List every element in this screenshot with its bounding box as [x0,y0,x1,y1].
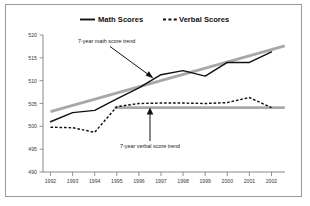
y-tick-label-490: 490 [28,169,37,175]
x-tick-label-1997: 1997 [155,178,167,184]
x-tick-label-2001: 2001 [244,178,256,184]
y-tick-label-510: 510 [28,78,37,84]
y-tick-label-505: 505 [28,101,37,107]
annotation-label-math-trend: 7-year math score trend [78,38,135,44]
trend-lines-group [51,46,285,112]
x-tick-label-1996: 1996 [133,178,145,184]
y-tick-label-520: 520 [28,32,37,38]
x-tick-label-1994: 1994 [89,178,101,184]
x-tick-label-1992: 1992 [45,178,57,184]
annotation-math-trend: 7-year math score trend [78,38,154,79]
annotation-verbal-trend: 7-year verbal score trend [120,108,180,150]
y-axis-ticks: 520 515 510 505 500 495 490 [28,32,43,175]
annotation-arrowhead-math-trend [146,71,154,78]
math-trend-line [51,46,285,112]
x-tick-label-1995: 1995 [111,178,123,184]
data-series-group [51,52,272,132]
series-line-math-scores [51,52,272,122]
annotation-label-verbal-trend: 7-year verbal score trend [120,143,180,149]
scores-line-chart: Math Scores Verbal Scores 520 515 510 50… [0,0,310,206]
y-tick-label-500: 500 [28,123,37,129]
x-axis-ticks: 1992 1993 1994 1995 1996 1997 1998 1999 … [45,172,278,184]
y-tick-label-515: 515 [28,55,37,61]
x-tick-label-2002: 2002 [266,178,278,184]
annotation-leader-math-trend [110,47,151,77]
x-tick-label-1998: 1998 [177,178,189,184]
x-tick-label-2000: 2000 [222,178,234,184]
legend-label-verbal-scores: Verbal Scores [179,15,229,24]
chart-legend: Math Scores Verbal Scores [80,15,229,24]
legend-label-math-scores: Math Scores [98,15,143,24]
x-tick-label-1993: 1993 [67,178,79,184]
y-tick-label-495: 495 [28,146,37,152]
x-tick-label-1999: 1999 [199,178,211,184]
